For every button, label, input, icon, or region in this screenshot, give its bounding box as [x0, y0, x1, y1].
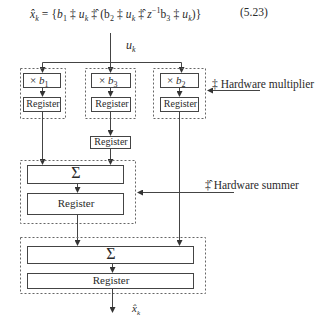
hardware-summer-annotation: ‡̂ Hardware summer — [205, 179, 299, 191]
summer2-register: Register — [28, 274, 194, 286]
register-b2: Register — [162, 98, 199, 109]
multiplier-b2: × b2 — [167, 74, 185, 89]
summer2-sigma: Σ — [28, 245, 194, 263]
hardware-multiplier-annotation: ‡ Hardware multiplier — [212, 78, 314, 90]
summer1-register: Register — [28, 197, 124, 209]
multiplier-b3: × b3 — [99, 74, 117, 89]
register-b1: Register — [25, 98, 61, 109]
register-b3: Register — [93, 98, 131, 109]
delay-register: Register — [91, 136, 131, 147]
output-label: x̂k — [132, 302, 140, 317]
input-label: uk — [126, 38, 136, 54]
multiplier-b1: × b1 — [30, 74, 48, 89]
summer1-sigma: Σ — [28, 164, 124, 182]
